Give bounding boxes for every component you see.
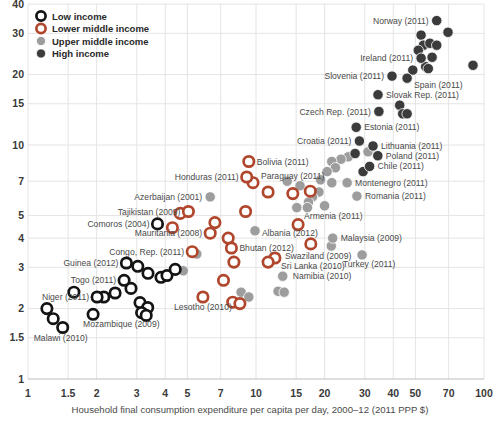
- country-label: Azerbaijan (2001): [134, 192, 202, 202]
- data-point-bolivia-2011: [244, 156, 254, 166]
- data-point: [432, 40, 442, 50]
- data-point: [250, 226, 260, 236]
- x-tick-label: 4: [162, 387, 168, 399]
- country-label: Ireland (2011): [360, 53, 413, 63]
- data-point-malaysia-2009: [328, 233, 338, 243]
- country-label: Montenegro (2011): [355, 178, 428, 188]
- country-label: Congo, Rep. (2011): [109, 247, 184, 257]
- country-label: Spain (2011): [414, 80, 463, 90]
- x-tick-label: 2: [94, 387, 100, 399]
- y-tick-label: 5: [18, 209, 24, 221]
- country-label: Albania (2012): [262, 228, 318, 238]
- y-tick-label: 1: [18, 373, 24, 385]
- country-label: Namibia (2010): [293, 271, 352, 281]
- scatter-chart: 11.5234571015203040507010011.52345710152…: [0, 0, 493, 424]
- country-label: Norway (2011): [373, 16, 429, 26]
- data-point-ireland-2011: [416, 53, 426, 63]
- x-tick-label: 3: [134, 387, 140, 399]
- country-label: Czech Rep. (2011): [299, 107, 371, 117]
- data-point-malawi-2010: [58, 322, 68, 332]
- x-tick-label: 50: [410, 387, 422, 399]
- data-point: [443, 27, 453, 37]
- y-tick-label: 3: [18, 261, 24, 273]
- data-point-lesotho-2010: [198, 292, 208, 302]
- country-label: Mozambique (2009): [83, 319, 160, 329]
- data-point-spain-2011: [402, 73, 412, 83]
- legend-item-low-income: Low income: [36, 11, 107, 22]
- x-tick-label: 70: [443, 387, 455, 399]
- data-point: [416, 30, 426, 40]
- data-point: [292, 202, 302, 212]
- y-tick-label: 10: [12, 139, 24, 151]
- country-label: Niger (2011): [42, 292, 89, 302]
- legend: Low income Lower middle income Upper mid…: [36, 11, 149, 60]
- country-label: Estonia (2011): [364, 122, 419, 132]
- x-tick-label: 10: [250, 387, 262, 399]
- data-point: [210, 217, 220, 227]
- data-point-albania-2012: [306, 239, 316, 249]
- data-point: [229, 257, 239, 267]
- data-point: [423, 63, 433, 73]
- data-point-honduras-2011: [242, 172, 252, 182]
- legend-label: Low income: [52, 11, 107, 22]
- data-point-croatia-2011: [354, 136, 364, 146]
- data-point-slovenia-2011: [387, 71, 397, 81]
- data-point: [170, 264, 180, 274]
- country-label: Malawi (2010): [34, 333, 88, 343]
- data-point-bhutan-2012: [226, 243, 236, 253]
- data-point: [350, 148, 360, 158]
- x-tick-label: 5: [184, 387, 190, 399]
- country-label: Swaziland (2009): [285, 251, 352, 261]
- y-tick-label: 4: [18, 232, 24, 244]
- data-point: [235, 298, 245, 308]
- x-tick-label: 40: [387, 387, 399, 399]
- country-label: Paraguay (2011): [261, 171, 325, 181]
- data-point-slovak-rep-2011: [373, 90, 383, 100]
- data-point: [402, 109, 412, 119]
- country-label: Slovenia (2011): [324, 71, 384, 81]
- country-label: Tajikistan (2009): [118, 207, 181, 217]
- data-point: [468, 60, 478, 70]
- country-label: Sri Lanka (2010): [281, 261, 345, 271]
- legend-label: High income: [52, 48, 109, 59]
- country-label: Honduras (2011): [175, 172, 239, 182]
- country-label: Poland (2011): [386, 151, 439, 161]
- data-point-namibia-2010: [278, 271, 288, 281]
- data-point: [288, 188, 298, 198]
- country-label: Slovak Rep. (2011): [386, 90, 459, 100]
- data-point-sri-lanka-2010: [263, 257, 273, 267]
- country-label: Malaysia (2009): [341, 233, 402, 243]
- data-point: [218, 275, 228, 285]
- data-point: [143, 268, 153, 278]
- plot-canvas: 11.5234571015203040507010011.52345710152…: [0, 0, 493, 424]
- country-label: Mauritania (2008): [135, 228, 202, 238]
- data-point: [279, 287, 289, 297]
- lower-middle-income-marker-icon: [36, 24, 45, 33]
- data-point: [305, 186, 315, 196]
- country-label: Lithuania (2011): [381, 141, 443, 151]
- data-point: [327, 178, 337, 188]
- data-point: [133, 261, 143, 271]
- data-point-mozambique-2009: [88, 309, 98, 319]
- x-tick-label: 30: [359, 387, 371, 399]
- legend-item-lower-middle-income: Lower middle income: [36, 23, 149, 34]
- y-tick-label: 7: [18, 175, 24, 187]
- data-point-chile-2011: [364, 161, 374, 171]
- data-point-niger-2011: [92, 292, 102, 302]
- legend-label: Lower middle income: [52, 23, 149, 34]
- data-point: [319, 201, 329, 211]
- country-label: Croatia (2011): [297, 136, 351, 146]
- x-axis-title: Household final consumption expenditure …: [72, 404, 429, 415]
- data-point: [110, 288, 120, 298]
- data-point-estonia-2011: [351, 122, 361, 132]
- high-income-marker-icon: [36, 49, 45, 58]
- y-tick-label: 1.5: [9, 331, 24, 343]
- x-tick-label: 20: [319, 387, 331, 399]
- data-point-lithuania-2011: [368, 141, 378, 151]
- country-label: Togo (2011): [71, 275, 116, 285]
- x-tick-label: 100: [475, 387, 493, 399]
- data-point: [240, 206, 250, 216]
- legend-item-high-income: High income: [36, 48, 109, 59]
- y-tick-label: 15: [12, 97, 24, 109]
- country-label: Comoros (2004): [87, 219, 149, 229]
